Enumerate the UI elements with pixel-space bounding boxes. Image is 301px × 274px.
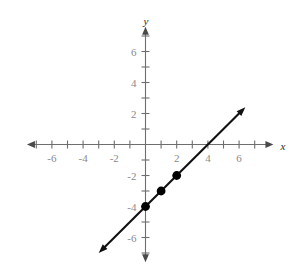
data-point-1: (1, -3) <box>157 187 166 196</box>
x-axis-left-arrow-icon <box>27 141 35 148</box>
x-tick-label-neg6: -6 <box>47 152 57 164</box>
y-tick-label-4: 4 <box>131 77 137 89</box>
y-axis-label: y <box>143 15 149 27</box>
y-tick-label-2: 2 <box>131 108 137 120</box>
data-point-2: (2, -2) <box>172 171 181 180</box>
y-tick-label-neg2: -2 <box>127 170 136 182</box>
y-tick-label-neg4: -4 <box>127 201 137 213</box>
x-tick-label-2: 2 <box>174 152 180 164</box>
data-point-0: (0, -4) <box>141 202 150 211</box>
x-axis-tick-labels: -6-4-2246 <box>47 152 242 164</box>
x-axis <box>27 141 273 148</box>
plot-area: -6-4-2246 642-2-4-6 (0, -4)(1, -3)(2, -2… <box>0 0 301 274</box>
line-segment-0 <box>102 111 242 250</box>
x-tick-label-neg4: -4 <box>79 152 89 164</box>
y-tick-label-neg6: -6 <box>127 232 137 244</box>
y-axis-bottom-arrow-icon <box>142 254 149 262</box>
y-axis-top-arrow-icon <box>142 27 149 35</box>
coordinate-plane-graph: -6-4-2246 642-2-4-6 (0, -4)(1, -3)(2, -2… <box>0 0 301 274</box>
y-tick-label-6: 6 <box>131 46 137 58</box>
x-axis-label: x <box>280 140 286 152</box>
x-tick-label-neg2: -2 <box>110 152 119 164</box>
x-tick-label-6: 6 <box>236 152 242 164</box>
x-axis-right-arrow-icon <box>265 141 273 148</box>
line-series <box>99 107 246 253</box>
x-tick-label-4: 4 <box>205 152 211 164</box>
